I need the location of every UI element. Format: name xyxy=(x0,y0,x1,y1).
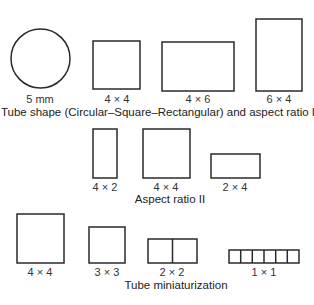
label-rect-4x2: 4 × 2 xyxy=(93,181,118,193)
rect-tube-4x2 xyxy=(93,129,117,178)
caption-aspect-ratio-ii: Aspect ratio II xyxy=(135,193,205,206)
square-tube-4x4-mini xyxy=(17,214,64,263)
label-strip-1x1: 1 × 1 xyxy=(252,266,277,278)
diagram-canvas xyxy=(0,0,314,305)
square-tube-4x4-ar2 xyxy=(143,129,190,178)
label-rect-6x4: 6 × 4 xyxy=(267,93,292,105)
rect-tube-2x4 xyxy=(211,154,260,178)
caption-tube-shape: Tube shape (Circular–Square–Rectangular)… xyxy=(1,106,314,119)
label-circle-5mm: 5 mm xyxy=(26,93,54,105)
strip-tube-1x1 xyxy=(229,250,299,263)
rect-tube-6x4 xyxy=(256,19,302,91)
label-rect-4x6: 4 × 6 xyxy=(186,93,211,105)
caption-tube-miniaturization: Tube miniaturization xyxy=(124,279,227,292)
label-square-4x4: 4 × 4 xyxy=(105,93,130,105)
split-tube-2x2 xyxy=(148,239,197,263)
label-square-3x3: 3 × 3 xyxy=(95,266,120,278)
label-square-4x4-mini: 4 × 4 xyxy=(28,266,53,278)
label-split-2x2: 2 × 2 xyxy=(160,266,185,278)
label-square-4x4-ar2: 4 × 4 xyxy=(154,181,179,193)
label-rect-2x4: 2 × 4 xyxy=(223,181,248,193)
square-tube-3x3 xyxy=(89,227,125,263)
circle-tube-5mm xyxy=(11,29,70,88)
square-tube-4x4 xyxy=(93,41,140,89)
rect-tube-4x6 xyxy=(162,42,234,91)
